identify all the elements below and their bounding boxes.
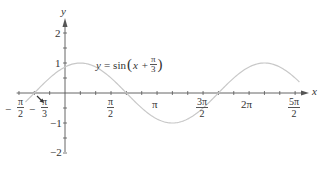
axes bbox=[17, 18, 309, 153]
x-tick-label: π 2 bbox=[107, 97, 114, 119]
x-tick-label: 3π 2 bbox=[196, 97, 208, 119]
fraction: π 3 bbox=[150, 55, 157, 74]
x-tick-label: π 3 bbox=[41, 97, 48, 119]
chart-canvas bbox=[0, 0, 324, 175]
y-tick-label: 2 bbox=[55, 28, 61, 39]
x-tick-label: 2π bbox=[241, 99, 252, 110]
x-tick-label: 5π 2 bbox=[288, 97, 300, 119]
y-tick-label: 1 bbox=[55, 58, 61, 69]
function-label: y = sin ( x + π 3 ) bbox=[96, 55, 164, 74]
x-tick-label: π 2 bbox=[17, 97, 24, 119]
x-tick-neg-sign: − bbox=[5, 103, 11, 115]
x-axis-label: x bbox=[312, 86, 317, 97]
close-paren: ) bbox=[158, 56, 163, 73]
y-axis-label: y bbox=[61, 6, 66, 17]
y-tick-label: −1 bbox=[50, 118, 62, 129]
open-paren: ( bbox=[127, 56, 132, 73]
x-tick-label: π bbox=[152, 99, 158, 110]
y-tick-label: −2 bbox=[50, 147, 62, 158]
x-tick-neg-sign: − bbox=[29, 103, 35, 115]
